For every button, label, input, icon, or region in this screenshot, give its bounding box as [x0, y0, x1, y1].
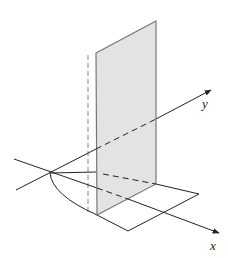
x-axis-back	[14, 159, 97, 188]
x-axis-label: x	[209, 238, 216, 253]
y-axis-label: y	[200, 96, 208, 111]
x-axis	[128, 199, 219, 233]
cross-section-plane	[96, 21, 156, 215]
diagram-canvas: y x	[0, 0, 228, 258]
origin-to-plane-line	[50, 172, 96, 173]
